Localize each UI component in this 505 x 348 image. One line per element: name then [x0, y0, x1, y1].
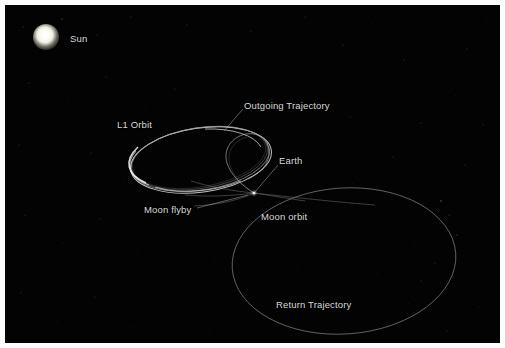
sun-body — [33, 24, 59, 50]
leader-lines — [197, 109, 278, 208]
trajectory-diagram-svg — [5, 5, 500, 343]
label-moon-orbit: Moon orbit — [261, 211, 307, 222]
label-sun: Sun — [70, 33, 87, 44]
label-l1-orbit: L1 Orbit — [117, 119, 152, 130]
moon-orbit-ellipse — [227, 180, 461, 341]
star-field — [19, 17, 492, 336]
label-outgoing-trajectory: Outgoing Trajectory — [244, 100, 330, 111]
label-return-trajectory: Return Trajectory — [276, 299, 351, 310]
label-moon-flyby: Moon flyby — [144, 204, 191, 215]
leader-line-moon-flyby — [197, 195, 248, 208]
starfield-sky: Sun L1 Orbit Outgoing Trajectory Earth M… — [5, 5, 500, 343]
label-earth: Earth — [279, 155, 302, 166]
trajectory-figure: Sun L1 Orbit Outgoing Trajectory Earth M… — [0, 0, 505, 348]
